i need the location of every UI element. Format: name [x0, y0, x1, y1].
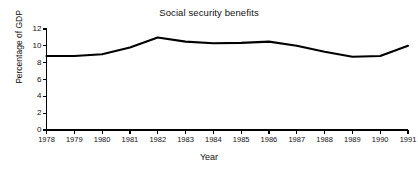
x-tick-label: 1985 [226, 135, 256, 144]
x-tick-label: 1986 [254, 135, 284, 144]
y-tick-label: 10 [9, 41, 42, 50]
x-tick-label: 1988 [310, 135, 340, 144]
y-tick-label: 4 [9, 91, 42, 100]
data-series-line [47, 37, 409, 56]
y-tick-label: 8 [9, 58, 42, 67]
x-tick-label: 1990 [365, 135, 395, 144]
y-tick-label: 2 [9, 108, 42, 117]
x-tick-label: 1978 [32, 135, 62, 144]
y-tick-label: 12 [9, 24, 42, 33]
x-tick-label: 1981 [115, 135, 145, 144]
plot-area [0, 0, 418, 178]
x-tick-label: 1983 [171, 135, 201, 144]
x-tick-label: 1991 [393, 135, 418, 144]
x-tick-label: 1984 [198, 135, 228, 144]
chart-figure: Social security benefits Percentage of G… [0, 0, 418, 178]
x-tick-label: 1980 [87, 135, 117, 144]
y-tick-label: 0 [9, 125, 42, 134]
y-tick-label: 6 [9, 75, 42, 84]
x-tick-label: 1982 [143, 135, 173, 144]
x-tick-label: 1987 [282, 135, 312, 144]
x-tick-label: 1989 [337, 135, 367, 144]
x-tick-label: 1979 [59, 135, 89, 144]
